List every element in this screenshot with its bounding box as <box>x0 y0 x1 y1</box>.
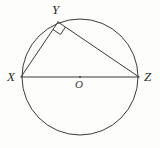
right-angle-mark-icon <box>53 27 65 34</box>
center-label-o: O <box>75 79 83 90</box>
geometry-figure: X Y Z O <box>0 0 160 148</box>
vertex-label-z: Z <box>144 70 151 83</box>
chord-segment-yz <box>58 22 139 77</box>
chord-segment-xy <box>21 22 58 77</box>
vertex-label-y: Y <box>52 3 59 16</box>
geometry-canvas <box>0 0 160 148</box>
vertex-label-x: X <box>7 70 15 83</box>
